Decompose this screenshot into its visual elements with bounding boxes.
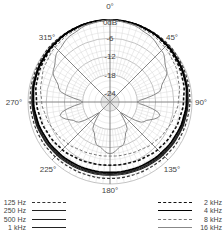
angle-label: 45°	[166, 33, 178, 42]
radial-tick-label: 0dB	[103, 18, 117, 27]
angle-label: 225°	[40, 165, 57, 174]
legend-swatch	[158, 219, 192, 220]
angle-label: 135°	[164, 165, 181, 174]
legend-swatch	[32, 210, 66, 211]
legend-swatch	[32, 219, 66, 220]
legend-swatch	[32, 227, 66, 228]
legend-item: 1 kHz	[2, 224, 66, 233]
radial-tick-label: -6	[106, 34, 114, 43]
legend-swatch	[158, 210, 192, 211]
legend-right: 2 kHz 4 kHz 8 kHz 16 kHz	[158, 198, 222, 232]
legend-item: 2 kHz	[158, 198, 222, 207]
radial-tick-label: -18	[104, 71, 116, 80]
legend-item: 8 kHz	[158, 215, 222, 224]
angle-label: 90°	[195, 98, 207, 107]
radial-tick-label: -24	[104, 89, 116, 98]
legend-swatch	[158, 227, 192, 228]
angle-label: 180°	[102, 186, 119, 195]
legend-item: 4 kHz	[158, 207, 222, 216]
legend-swatch	[158, 202, 192, 203]
legend-item: 250 Hz	[2, 207, 66, 216]
legend-left: 125 Hz 250 Hz 500 Hz 1 kHz	[2, 198, 66, 232]
legend-item: 125 Hz	[2, 198, 66, 207]
legend-item: 500 Hz	[2, 215, 66, 224]
radial-tick-label: -12	[104, 52, 116, 61]
legend-swatch	[32, 202, 66, 203]
angle-label: 0°	[106, 2, 114, 11]
angle-label: 270°	[6, 98, 23, 107]
angle-label: 315°	[39, 33, 56, 42]
legend-item: 16 kHz	[158, 224, 222, 233]
